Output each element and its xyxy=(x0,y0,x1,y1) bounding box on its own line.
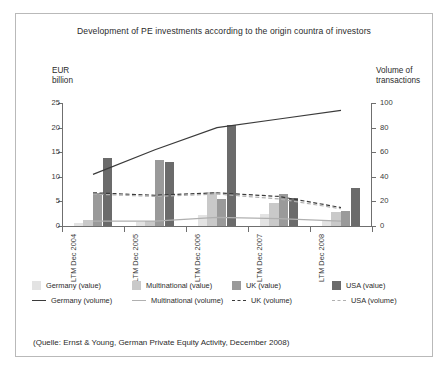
x-tick-label: LTM Dec 2005 xyxy=(131,234,140,282)
left-tick-label: 20 xyxy=(20,123,60,132)
source-note: (Quelle: Ernst & Young, German Private E… xyxy=(33,338,289,347)
legend-line-icon xyxy=(332,296,346,305)
x-tick-mark xyxy=(248,227,249,232)
legend-item-value[interactable]: Germany (value) xyxy=(32,278,137,293)
left-axis-caption-line1: EUR xyxy=(52,66,73,76)
legend-swatch-icon xyxy=(332,281,341,290)
legend-label: Multinational (value) xyxy=(146,281,212,290)
x-axis-line xyxy=(62,226,372,227)
right-tick-label: 40 xyxy=(380,172,420,181)
right-axis-caption-line2: transactions xyxy=(376,76,420,86)
legend-item-volume[interactable]: USA (volume) xyxy=(332,293,437,308)
line-series xyxy=(93,217,341,221)
legend-label: Germany (volume) xyxy=(51,296,112,305)
legend-label: USA (value) xyxy=(346,281,385,290)
chart-legend: Germany (value)Germany (volume)Multinati… xyxy=(32,278,424,312)
legend-label: UK (volume) xyxy=(251,296,292,305)
legend-item-value[interactable]: USA (value) xyxy=(332,278,437,293)
chart-title: Development of PE investments according … xyxy=(16,26,432,36)
legend-swatch-icon xyxy=(32,281,41,290)
x-tick-label: LTM Dec 2007 xyxy=(255,234,264,282)
legend-label: Multinational (volume) xyxy=(151,296,223,305)
x-tick-label: LTM Dec 2006 xyxy=(193,234,202,282)
right-tick-label: 80 xyxy=(380,123,420,132)
right-tick-label: 20 xyxy=(380,196,420,205)
right-tick-label: 60 xyxy=(380,147,420,156)
right-axis-caption: Volume of transactions xyxy=(376,66,420,86)
right-tick-mark xyxy=(372,103,376,104)
right-tick-mark xyxy=(372,177,376,178)
left-axis-caption: EUR billion xyxy=(52,66,73,86)
chart-figure-frame: Development of PE investments according … xyxy=(15,13,433,357)
line-series xyxy=(93,110,341,174)
legend-line-icon xyxy=(232,296,246,305)
legend-item-volume[interactable]: UK (volume) xyxy=(232,293,337,308)
legend-column: USA (value)USA (volume) xyxy=(332,278,437,308)
legend-column: Multinational (value)Multinational (volu… xyxy=(132,278,237,308)
x-tick-mark xyxy=(372,227,373,232)
left-tick-label: 25 xyxy=(20,98,60,107)
right-tick-label: 0 xyxy=(380,221,420,230)
right-axis-caption-line1: Volume of xyxy=(376,66,420,76)
left-axis-caption-line2: billion xyxy=(52,76,73,86)
legend-item-value[interactable]: UK (value) xyxy=(232,278,337,293)
legend-label: USA (volume) xyxy=(351,296,397,305)
legend-swatch-icon xyxy=(132,281,141,290)
legend-column: Germany (value)Germany (volume) xyxy=(32,278,137,308)
x-tick-mark xyxy=(186,227,187,232)
legend-item-volume[interactable]: Multinational (volume) xyxy=(132,293,237,308)
right-tick-label: 100 xyxy=(380,98,420,107)
right-tick-mark xyxy=(372,152,376,153)
legend-line-icon xyxy=(132,296,146,305)
x-tick-mark xyxy=(124,227,125,232)
x-tick-label: LTM Dec 2008 xyxy=(317,234,326,282)
left-tick-label: 10 xyxy=(20,172,60,181)
legend-column: UK (value)UK (volume) xyxy=(232,278,337,308)
legend-item-value[interactable]: Multinational (value) xyxy=(132,278,237,293)
legend-line-icon xyxy=(32,296,46,305)
x-tick-mark xyxy=(310,227,311,232)
line-series-layer xyxy=(62,103,372,226)
left-tick-label: 0 xyxy=(20,221,60,230)
right-tick-mark xyxy=(372,201,376,202)
legend-label: UK (value) xyxy=(246,281,281,290)
legend-label: Germany (value) xyxy=(46,281,101,290)
legend-item-volume[interactable]: Germany (volume) xyxy=(32,293,137,308)
legend-swatch-icon xyxy=(232,281,241,290)
x-tick-label: LTM Dec 2004 xyxy=(69,234,78,282)
left-tick-label: 15 xyxy=(20,147,60,156)
right-tick-mark xyxy=(372,128,376,129)
line-series xyxy=(93,193,341,208)
x-tick-mark xyxy=(62,227,63,232)
left-tick-label: 5 xyxy=(20,196,60,205)
plot-area: 0510152025 020406080100 LTM Dec 2004LTM … xyxy=(62,103,372,226)
